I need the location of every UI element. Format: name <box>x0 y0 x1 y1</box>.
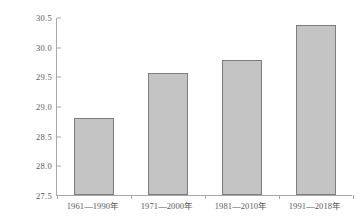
x-axis-label: 1961—1990年 <box>67 199 120 211</box>
y-tick-mark <box>57 166 61 167</box>
y-tick-mark <box>57 107 61 108</box>
x-tick-mark <box>353 195 354 199</box>
bar <box>74 118 114 195</box>
bar <box>296 25 336 195</box>
y-tick-mark <box>57 136 61 137</box>
y-tick-label: 27.5 <box>36 191 57 201</box>
y-tick-mark <box>57 47 61 48</box>
y-tick-label: 29.0 <box>36 102 57 112</box>
y-tick-label: 29.5 <box>36 72 57 82</box>
y-tick-mark <box>57 77 61 78</box>
x-axis-label: 1991—2018年 <box>289 199 342 211</box>
bars-layer <box>57 18 352 195</box>
bar <box>222 60 262 195</box>
y-tick-label: 30.5 <box>36 13 57 23</box>
x-axis-label: 1971—2000年 <box>141 199 194 211</box>
bar <box>148 73 188 195</box>
x-axis-labels: 1961—1990年1971—2000年1981—2010年1991—2018年 <box>56 199 352 217</box>
y-tick-mark <box>57 18 61 19</box>
plot-area: 27.528.028.529.029.530.030.5 <box>56 18 352 196</box>
y-tick-label: 30.0 <box>36 43 57 53</box>
bar-chart: 雨强/ (mm/h) 27.528.028.529.029.530.030.5 … <box>0 0 364 224</box>
x-axis-label: 1981—2010年 <box>215 199 268 211</box>
y-tick-label: 28.5 <box>36 132 57 142</box>
y-tick-label: 28.0 <box>36 161 57 171</box>
